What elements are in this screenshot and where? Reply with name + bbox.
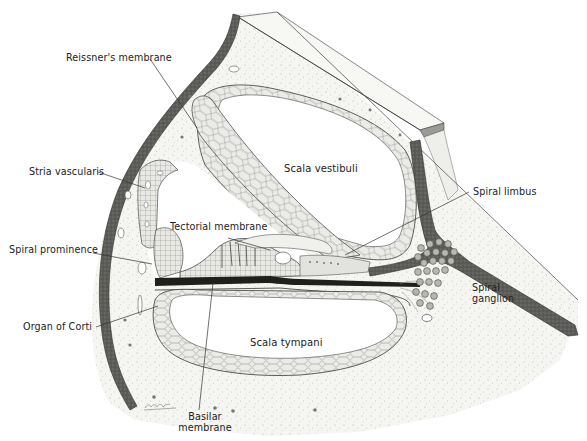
label-stria-vascularis: Stria vascularis [29, 166, 104, 177]
stria-vessel [146, 181, 151, 189]
label-organ-of-corti: Organ of Corti [23, 321, 92, 332]
label-spiral-ganglion: Spiral ganglion [472, 282, 514, 304]
stria-vessel [145, 221, 149, 227]
label-reissners-membrane: Reissner's membrane [66, 52, 172, 63]
label-spiral-limbus: Spiral limbus [473, 186, 537, 197]
inner-sulcus [275, 252, 291, 264]
cochlea-diagram [0, 0, 587, 441]
ganglion-vessel [422, 315, 432, 322]
stria-vessel [157, 171, 163, 175]
label-scala-tympani: Scala tympani [250, 337, 323, 348]
label-basilar-membrane: Basilar membrane [178, 411, 231, 433]
label-scala-vestibuli: Scala vestibuli [284, 163, 358, 174]
label-tectorial-membrane: Tectorial membrane [170, 221, 268, 232]
stria-vessel [144, 202, 148, 208]
label-spiral-prominence: Spiral prominence [9, 244, 98, 255]
